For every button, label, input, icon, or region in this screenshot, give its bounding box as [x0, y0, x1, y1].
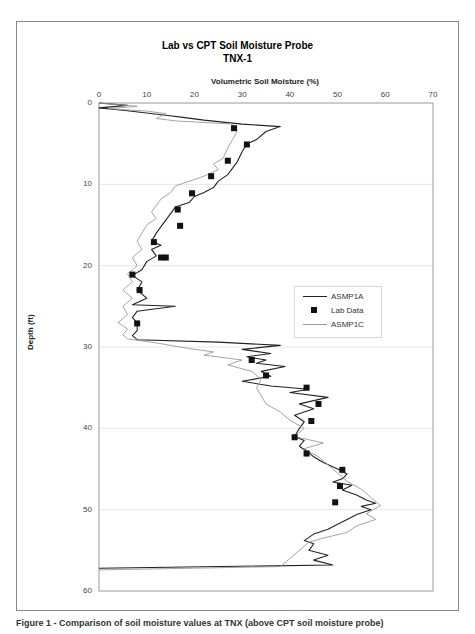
lab-data-marker: [163, 255, 169, 261]
legend-line-icon: [303, 324, 327, 325]
lab-data-marker: [129, 272, 135, 278]
lab-data-marker: [137, 287, 143, 293]
legend-line-icon: [303, 296, 327, 297]
lab-data-marker: [189, 190, 195, 196]
lab-data-marker: [304, 451, 310, 457]
lab-data-marker: [332, 499, 338, 505]
lab-data-marker: [151, 239, 157, 245]
lab-data-marker: [249, 357, 255, 363]
lab-data-marker: [134, 320, 140, 326]
lab-data-marker: [263, 372, 269, 378]
lab-data-marker: [308, 418, 314, 424]
lab-data-marker: [337, 483, 343, 489]
legend-item-asmp1a: ASMP1A: [295, 291, 381, 303]
legend-item-lab-data: Lab Data: [295, 305, 381, 317]
lab-data-marker: [244, 141, 250, 147]
lab-data-marker: [175, 207, 181, 213]
lab-data-marker: [208, 173, 214, 179]
legend-square-marker-icon: [311, 307, 317, 313]
figure-caption: Figure 1 - Comparison of soil moisture v…: [16, 618, 466, 634]
lab-data-marker: [315, 401, 321, 407]
legend-item-asmp1c: ASMP1C: [295, 319, 381, 331]
lab-data-marker: [339, 467, 345, 473]
lab-data-marker: [177, 223, 183, 229]
plot-area: [0, 0, 475, 634]
lab-data-marker: [292, 434, 298, 440]
lab-data-marker: [231, 125, 237, 131]
legend: ASMP1A Lab Data ASMP1C: [294, 286, 382, 338]
lab-data-marker: [225, 158, 231, 164]
lab-data-marker: [304, 385, 310, 391]
